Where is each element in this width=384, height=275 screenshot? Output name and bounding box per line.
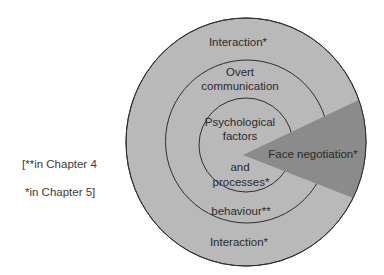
inner-label-line1: Psychological (205, 116, 275, 128)
inner-label-line3: and (230, 161, 249, 173)
middle-label-top-line2: communication (201, 80, 278, 92)
outer-label-bottom: Interaction* (210, 236, 269, 248)
legend-note-chapter-4: [**in Chapter 4 (22, 158, 97, 170)
inner-label-line2: factors (223, 130, 258, 142)
wedge-label: Face negotiation* (268, 148, 358, 160)
concentric-circles-diagram: Interaction* Overt communication Psychol… (0, 0, 384, 275)
middle-label-bottom: behaviour** (211, 205, 271, 217)
legend-note-chapter-5: *in Chapter 5] (25, 186, 95, 198)
inner-label-line4: processes* (213, 176, 270, 188)
outer-label-top: Interaction* (209, 36, 268, 48)
middle-label-top-line1: Overt (226, 66, 255, 78)
